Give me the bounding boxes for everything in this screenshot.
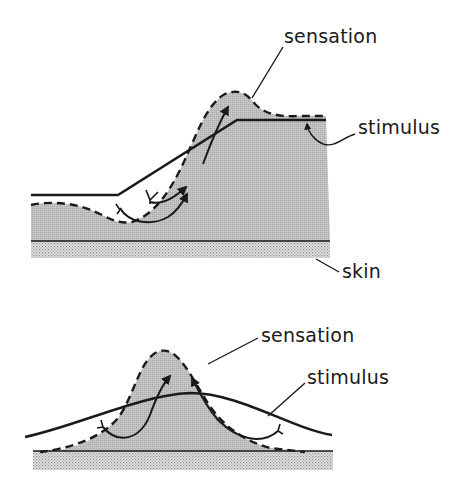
bottom-sensation-area bbox=[55, 351, 305, 451]
top-sensation-label: sensation bbox=[284, 27, 377, 46]
bottom-nerve-branch-left bbox=[97, 420, 103, 428]
bottom-stimulus-leader bbox=[268, 383, 305, 416]
bottom-sensation-leader bbox=[208, 338, 258, 364]
top-nerve-branch-2 bbox=[116, 204, 120, 214]
bottom-stimulus-label: stimulus bbox=[307, 368, 389, 387]
sensation-stimulus-diagram bbox=[0, 0, 472, 495]
bottom-nerve-branch-right bbox=[278, 424, 283, 434]
top-sensation-leader bbox=[252, 47, 283, 98]
top-panel bbox=[31, 47, 355, 272]
top-skin-layer bbox=[31, 241, 330, 258]
skin-label: skin bbox=[342, 262, 381, 281]
bottom-panel bbox=[25, 338, 333, 470]
bottom-skin-layer bbox=[33, 451, 333, 470]
top-stimulus-label: stimulus bbox=[358, 118, 440, 137]
skin-leader bbox=[316, 259, 339, 272]
top-sensation-area bbox=[31, 92, 330, 241]
bottom-sensation-label: sensation bbox=[261, 326, 354, 345]
